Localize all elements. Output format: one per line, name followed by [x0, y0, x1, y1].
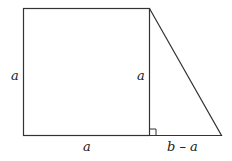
trapezoid-diagram: a a a b – a	[0, 0, 232, 161]
label-bottom-square: a	[83, 139, 91, 154]
label-left-side: a	[11, 68, 19, 83]
label-inner-height: a	[137, 68, 145, 83]
right-angle-marker	[150, 129, 157, 136]
right-triangle-shape	[150, 9, 222, 136]
label-bottom-triangle: b – a	[167, 139, 198, 154]
square-shape	[24, 9, 150, 136]
